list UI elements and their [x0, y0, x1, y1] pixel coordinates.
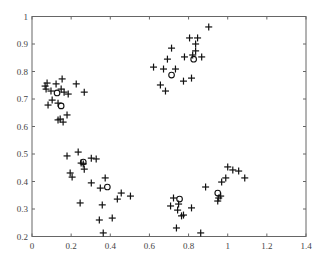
cross-point [127, 193, 134, 200]
y-tick-label: 1 [24, 12, 29, 22]
cross-point [186, 34, 193, 41]
cross-point [102, 174, 109, 181]
y-tick-label: 0.4 [17, 177, 29, 187]
plot-frame [32, 17, 306, 237]
cross-point [96, 217, 103, 224]
circle-point [191, 56, 197, 62]
x-tick-label: 0.6 [144, 241, 156, 251]
scatter-chart: 00.20.40.60.811.21.4 0.20.30.40.50.60.70… [0, 0, 324, 267]
y-tick-label: 0.2 [17, 232, 28, 242]
cross-point [75, 149, 82, 156]
y-tick-label: 0.6 [17, 122, 29, 132]
cross-point [188, 204, 195, 211]
cross-point [170, 195, 177, 202]
cross-point [241, 174, 248, 181]
cross-point [167, 202, 174, 209]
circle-point [54, 90, 60, 96]
cross-point [93, 155, 100, 162]
cross-point [173, 224, 180, 231]
cross-point [181, 53, 188, 60]
y-tick-label: 0.5 [17, 149, 29, 159]
cross-point [150, 64, 157, 71]
cross-point [168, 45, 175, 52]
cross-point [97, 185, 104, 192]
x-tick-label: 0.2 [66, 241, 77, 251]
cross-point [174, 207, 181, 214]
cross-point [73, 80, 80, 87]
cross-point [59, 75, 66, 82]
data-marks [42, 23, 249, 236]
cross-point [99, 201, 106, 208]
y-tick-label: 0.7 [17, 94, 29, 104]
circle-point [177, 196, 183, 202]
cross-point [172, 66, 179, 73]
circle-point [169, 72, 175, 78]
x-tick-label: 1 [225, 241, 230, 251]
series-points [42, 23, 249, 236]
series-centers [54, 56, 220, 202]
x-tick-label: 0 [30, 241, 35, 251]
circle-point [58, 103, 64, 109]
cross-point [218, 179, 225, 186]
cross-point [188, 75, 195, 82]
cross-point [88, 155, 95, 162]
cross-point [64, 111, 71, 118]
x-tick-label: 0.4 [105, 241, 117, 251]
cross-point [160, 66, 167, 73]
y-tick-label: 0.9 [17, 39, 29, 49]
cross-point [194, 34, 201, 41]
cross-point [81, 89, 88, 96]
cross-point [192, 41, 199, 48]
y-tick-label: 0.8 [17, 67, 29, 77]
cross-point [53, 80, 60, 87]
cross-point [77, 199, 84, 206]
cross-point [205, 23, 212, 30]
cross-point [202, 184, 209, 191]
cross-point [100, 229, 107, 236]
cross-point [81, 166, 88, 173]
cross-point [45, 102, 52, 109]
cross-point [118, 190, 125, 197]
cross-point [114, 196, 121, 203]
y-axis: 0.20.30.40.50.60.70.80.91 [17, 12, 306, 242]
cross-point [180, 78, 187, 85]
cross-point [235, 168, 242, 175]
cross-point [222, 174, 229, 181]
cross-point [109, 215, 116, 222]
x-tick-label: 1.2 [261, 241, 272, 251]
x-axis: 00.20.40.60.811.21.4 [30, 17, 312, 251]
cross-point [88, 179, 95, 186]
y-tick-label: 0.3 [17, 204, 29, 214]
cross-point [162, 88, 169, 95]
cross-point [164, 56, 171, 63]
cross-point [157, 81, 164, 88]
cross-point [197, 229, 204, 236]
circle-point [105, 184, 111, 190]
cross-point [64, 152, 71, 159]
cross-point [198, 53, 205, 60]
x-tick-label: 0.8 [183, 241, 195, 251]
x-tick-label: 1.4 [300, 241, 312, 251]
circle-point [215, 190, 221, 196]
